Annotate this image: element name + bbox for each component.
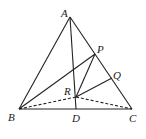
- segment-ad: [70, 17, 76, 109]
- label-a: A: [60, 7, 68, 19]
- label-c: C: [129, 112, 137, 124]
- label-b: B: [8, 111, 15, 123]
- geometry-diagram: A B C D P Q R: [0, 0, 146, 139]
- label-d: D: [71, 112, 80, 124]
- label-q: Q: [113, 69, 121, 81]
- segment-bp: [19, 54, 95, 109]
- label-p: P: [96, 43, 104, 55]
- segment-rq: [76, 78, 112, 97]
- label-r: R: [63, 85, 71, 97]
- segment-ab: [19, 17, 70, 109]
- segment-rc-dashed: [76, 97, 132, 109]
